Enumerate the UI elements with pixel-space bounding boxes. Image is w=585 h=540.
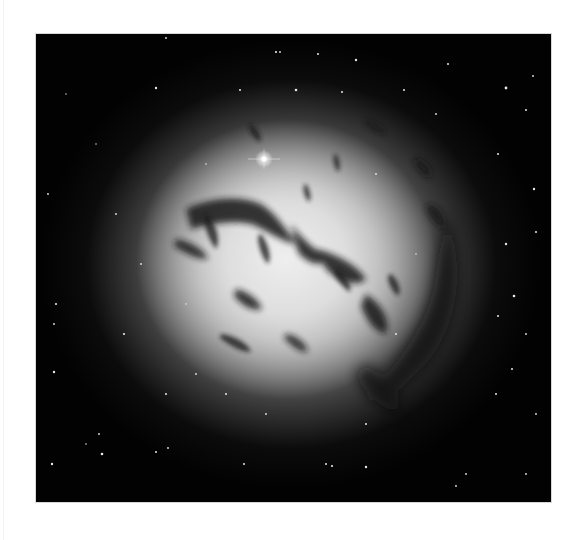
galaxy-photo xyxy=(36,34,551,502)
bright-star xyxy=(248,149,280,169)
page-edge-line xyxy=(3,0,4,540)
star-field xyxy=(36,34,551,502)
